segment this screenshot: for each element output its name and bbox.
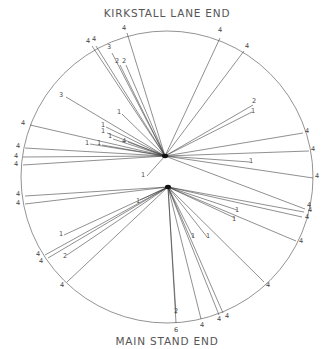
- shot-line: [165, 133, 303, 156]
- run-label: 4: [16, 199, 20, 207]
- shot-line: [96, 46, 165, 156]
- run-label: 4: [217, 315, 221, 323]
- shot-line: [126, 65, 165, 156]
- run-label: 6: [174, 326, 178, 334]
- boundary-circle: [21, 31, 313, 323]
- shot-line: [168, 187, 201, 319]
- run-label: 2: [122, 57, 126, 65]
- shot-line: [25, 187, 168, 196]
- run-label: 2: [252, 97, 256, 105]
- shot-line: [165, 38, 220, 156]
- run-label: 2: [63, 252, 67, 260]
- shot-line: [168, 187, 296, 241]
- top-end-label: KIRKSTALL LANE END: [104, 7, 231, 19]
- run-label: 1: [97, 139, 101, 147]
- shot-line: [23, 156, 165, 165]
- run-label: 1: [136, 197, 140, 205]
- run-label: 2: [115, 57, 119, 65]
- run-label: 4: [225, 312, 229, 320]
- shot-line: [165, 51, 244, 156]
- run-label: 4: [21, 119, 25, 127]
- shot-line: [168, 187, 235, 218]
- run-label: 4: [311, 145, 315, 153]
- shot-line: [165, 105, 253, 156]
- run-label: 4: [16, 142, 20, 150]
- shot-line: [165, 112, 252, 156]
- shot-line: [168, 187, 264, 282]
- run-label: 1: [59, 230, 63, 238]
- run-label: 3: [107, 43, 111, 51]
- run-label: 1: [85, 139, 89, 147]
- run-label: 4: [60, 281, 64, 289]
- run-label: 4: [315, 172, 319, 180]
- shot-line: [165, 151, 309, 156]
- shot-line: [168, 187, 237, 210]
- bottom-end-label: MAIN STAND END: [115, 335, 218, 347]
- run-label: 1: [251, 107, 255, 115]
- run-label: 4: [305, 127, 309, 135]
- run-label: 1: [232, 215, 236, 223]
- wicket-hubs: [162, 154, 171, 189]
- run-label: 1: [249, 157, 253, 165]
- shot-line: [147, 156, 165, 176]
- run-label: 4: [122, 137, 126, 145]
- run-labels: 4443223141114411444421441414444411114424…: [14, 24, 319, 334]
- run-label: 4: [14, 152, 18, 160]
- run-label: 4: [305, 213, 309, 221]
- run-label: 1: [108, 132, 112, 140]
- shot-line: [112, 53, 165, 156]
- run-label: 4: [218, 26, 222, 34]
- wagon-wheel-diagram: KIRKSTALL LANE END 444322314111441144442…: [0, 0, 331, 349]
- run-label: 1: [117, 108, 121, 116]
- shot-line: [23, 156, 165, 157]
- shot-line: [64, 187, 168, 235]
- run-label: 1: [235, 206, 239, 214]
- shot-line: [165, 156, 305, 209]
- run-label: 1: [206, 232, 210, 240]
- shot-line: [92, 46, 165, 156]
- run-label: 4: [245, 42, 249, 50]
- run-label: 4: [299, 237, 303, 245]
- lower-wicket-point: [165, 185, 171, 189]
- shot-line: [168, 187, 176, 323]
- run-label: 4: [14, 160, 18, 168]
- shot-line: [168, 187, 219, 315]
- run-label: 4: [92, 35, 96, 43]
- shot-line: [165, 156, 313, 178]
- run-label: 4: [86, 37, 90, 45]
- run-label: 4: [200, 321, 204, 329]
- run-label: 4: [122, 24, 126, 32]
- shot-line: [168, 187, 193, 237]
- run-label: 4: [16, 190, 20, 198]
- run-label: 1: [141, 171, 145, 179]
- upper-wicket-point: [162, 154, 168, 158]
- shot-line: [168, 187, 223, 313]
- run-label: 4: [39, 257, 43, 265]
- run-label: 2: [174, 307, 178, 315]
- shot-line: [48, 187, 168, 258]
- run-label: 1: [191, 232, 195, 240]
- run-label: 1: [101, 127, 105, 135]
- run-label: 3: [59, 91, 63, 99]
- shot-lines: [23, 33, 313, 323]
- run-label: 4: [266, 281, 270, 289]
